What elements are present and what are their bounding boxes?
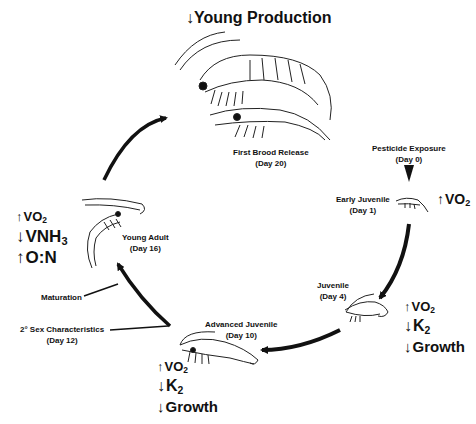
stage-first-brood-release: First Brood Release (Day 20) [233,147,309,169]
cycle-arrow-advanced-to-adult [118,264,170,326]
maturation-leader [84,284,118,296]
effect-text: K [413,317,425,334]
effect-text: VNH [26,227,62,246]
stage-pesticide-exposure: Pesticide Exposure (Day 0) [372,143,446,165]
effect-sub: 2 [425,324,431,335]
effect-text: VO [412,299,431,314]
effect-item: ↑VO2 [16,210,68,225]
effect-item: ↓Growth [404,339,465,354]
sex-characteristics-leader [110,326,168,330]
down-arrow-icon: ↓ [16,227,25,246]
early-juvenile-shrimp-drawing [396,198,428,212]
exposure-arrow [404,165,414,182]
effect-item: ↑VO2 [404,300,465,315]
effect-item: ↓Growth [157,399,218,414]
brood-shrimp-drawing [175,32,331,140]
stage-day: (Day 10) [205,330,277,341]
effect-text: VO [24,209,43,224]
effect-sub: 2 [178,384,184,395]
stage-name: 2° Sex Characteristics [20,324,104,335]
stage-name: First Brood Release [233,147,309,158]
life-cycle-artwork [0,0,476,424]
stage-young-adult: Young Adult (Day 16) [122,232,169,254]
stage-name: Advanced Juvenile [205,319,277,330]
up-arrow-icon: ↑ [437,191,444,207]
up-arrow-icon: ↑ [16,248,25,267]
stage-day: (Day 16) [122,243,169,254]
title-text: Young Production [194,9,331,26]
effects-young-adult: ↑VO2 ↓VNH3 ↑O:N [16,210,68,266]
stage-sex-characteristics: 2° Sex Characteristics (Day 12) [20,324,104,346]
up-arrow-icon: ↑ [157,359,164,374]
stage-day: (Day 12) [20,335,104,346]
stage-advanced-juvenile: Advanced Juvenile (Day 10) [205,319,277,341]
effect-item: ↑O:N [16,249,68,266]
stage-name: Maturation [41,292,82,303]
stage-name: Early Juvenile [336,194,390,205]
effect-sub: 2 [42,215,47,225]
cycle-arrow-adult-to-brood [104,118,166,180]
effect-item: ↑VO2 [157,360,218,375]
effect-sub: 2 [183,365,188,375]
stage-maturation: Maturation [41,292,82,303]
effects-juvenile: ↑VO2 ↓K2 ↓Growth [404,300,465,354]
stage-name: Pesticide Exposure [372,143,446,154]
effect-sub: 2 [430,305,435,315]
down-arrow-icon: ↓ [157,398,165,415]
stage-juvenile: Juvenile (Day 4) [317,280,349,302]
effect-text: Growth [166,398,219,415]
stage-early-juvenile: Early Juvenile (Day 1) [336,194,390,216]
down-arrow-icon: ↓ [404,338,412,355]
effect-text: Growth [413,338,466,355]
up-arrow-icon: ↑ [404,299,411,314]
young-production-title: ↓Young Production [186,9,331,27]
effect-item: ↓K2 [404,318,465,336]
effect-item: ↑VO2 [437,192,470,208]
stage-name: Juvenile [317,280,349,291]
stage-day: (Day 20) [233,158,309,169]
effect-sub: 3 [61,234,67,246]
down-arrow-icon: ↓ [404,317,412,334]
down-arrow-icon: ↓ [157,377,165,394]
effect-text: VO [165,359,184,374]
effect-text: VO [445,191,465,207]
effect-sub: 2 [465,198,470,208]
stage-day: (Day 4) [317,291,349,302]
effect-item: ↓K2 [157,378,218,396]
cycle-arrow-early-to-juvenile [380,224,409,298]
stage-name: Young Adult [122,232,169,243]
stage-day: (Day 1) [336,205,390,216]
effects-advanced-juvenile: ↑VO2 ↓K2 ↓Growth [157,360,218,414]
effect-text: K [166,377,178,394]
stage-day: (Day 0) [372,154,446,165]
effects-early-juvenile: ↑VO2 [437,192,470,208]
up-arrow-icon: ↑ [16,209,23,224]
effect-item: ↓VNH3 [16,228,68,247]
effect-text: O:N [26,248,57,267]
down-arrow-icon: ↓ [186,9,194,26]
